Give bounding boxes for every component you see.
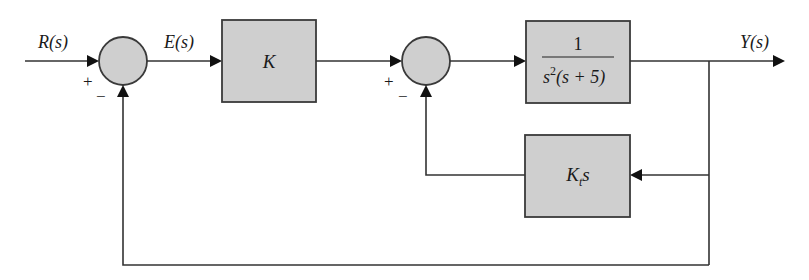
error-label: E(s) bbox=[163, 32, 194, 53]
plus-sign: + bbox=[83, 72, 93, 91]
denominator-rest: (s + 5) bbox=[556, 67, 605, 88]
arrow-icon bbox=[210, 55, 222, 67]
output-signal: Y(s) bbox=[630, 32, 785, 67]
plant-numerator: 1 bbox=[574, 34, 583, 54]
arrow-icon bbox=[773, 55, 785, 67]
arrow-icon bbox=[630, 169, 642, 181]
inner-feedback-wire bbox=[426, 93, 525, 175]
block-diagram: R(s) + − E(s) K + − 1 s2(s + 5) bbox=[0, 0, 809, 280]
error-signal: E(s) bbox=[147, 32, 222, 67]
rate-label-rest: s bbox=[582, 164, 589, 185]
plus-sign: + bbox=[384, 72, 394, 91]
arrow-icon bbox=[514, 55, 526, 67]
minus-sign: − bbox=[398, 87, 408, 106]
input-label: R(s) bbox=[37, 32, 68, 53]
arrow-icon bbox=[420, 85, 432, 97]
rate-feedback-input bbox=[630, 169, 709, 181]
arrow-icon bbox=[117, 85, 129, 97]
rate-feedback-block: Kts bbox=[525, 135, 630, 217]
sum-circle bbox=[402, 37, 450, 85]
input-signal: R(s) bbox=[25, 32, 99, 67]
plant-block: 1 s2(s + 5) bbox=[526, 21, 630, 103]
gain-output bbox=[316, 55, 402, 67]
sum2-output bbox=[450, 55, 526, 67]
denominator-base: s bbox=[543, 67, 550, 87]
arrow-icon bbox=[87, 55, 99, 67]
inner-feedback-path bbox=[420, 85, 525, 175]
sum-circle bbox=[99, 37, 147, 85]
gain-label: K bbox=[262, 51, 277, 72]
arrow-icon bbox=[390, 55, 402, 67]
summing-junction-2: + − bbox=[384, 37, 450, 106]
gain-block: K bbox=[222, 20, 316, 102]
minus-sign: − bbox=[96, 87, 106, 106]
summing-junction-1: + − bbox=[83, 37, 147, 106]
output-label: Y(s) bbox=[740, 32, 769, 53]
